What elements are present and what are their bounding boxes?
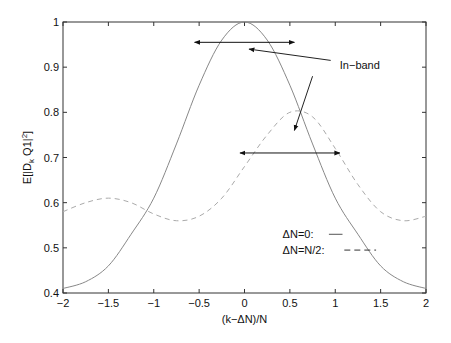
series-dashed-line [63, 111, 426, 221]
legend: ΔN=0:ΔN=N/2: [283, 228, 376, 256]
y-tick-label: 0.4 [44, 287, 59, 299]
y-tick-label: 1 [53, 16, 59, 28]
legend-label-dashed: ΔN=N/2: [283, 244, 325, 256]
x-tick-label: 1.5 [373, 297, 388, 309]
y-tick-label: 0.6 [44, 197, 59, 209]
x-tick-label: 0.5 [282, 297, 297, 309]
chart: −2−1.5−1−0.500.511.520.40.50.60.70.80.91… [0, 0, 451, 343]
legend-label-solid: ΔN=0: [283, 228, 314, 240]
pointer-arrow [249, 49, 331, 60]
x-tick-label: −1 [147, 297, 160, 309]
x-tick-label: 1 [332, 297, 338, 309]
y-axis-label: E[|Dk Q1|2] [20, 131, 36, 184]
x-tick-label: −1.5 [98, 297, 120, 309]
y-tick-label: 0.8 [44, 106, 59, 118]
y-tick-label: 0.9 [44, 61, 59, 73]
y-tick-label: 0.5 [44, 242, 59, 254]
x-tick-label: −0.5 [188, 297, 210, 309]
in-band-label: In−band [340, 59, 380, 71]
x-tick-label: 0 [241, 297, 247, 309]
y-tick-label: 0.7 [44, 152, 59, 164]
plot-annotations: In−band [195, 42, 380, 153]
x-axis-label: (k−ΔN)/N [222, 313, 268, 325]
x-tick-label: 2 [423, 297, 429, 309]
